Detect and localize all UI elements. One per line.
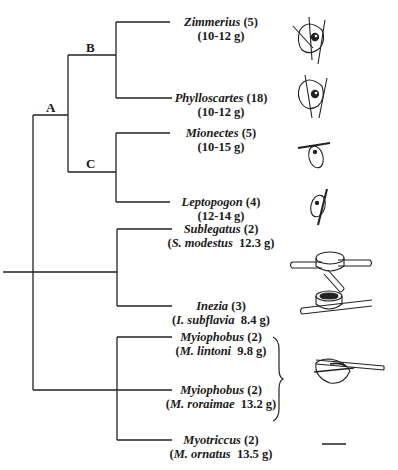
body-mass: (10-15 g)	[146, 140, 296, 154]
body-mass: 12.3 g)	[239, 236, 274, 250]
taxon-myiophobus-lintoni: Myiophobus (2) (M. lintoni 9.8 g)	[146, 330, 296, 358]
nest-leptopogon-icon	[308, 189, 327, 225]
nest-myiophobus-icon	[314, 359, 384, 383]
species-name: S. modestus	[172, 236, 233, 250]
genus-name: Myiophobus	[180, 330, 244, 344]
genus-name: Myiophobus	[180, 383, 244, 397]
body-mass: (12-14 g)	[146, 209, 296, 223]
species-count: (18)	[247, 91, 268, 105]
species-count: (2)	[244, 433, 259, 447]
nest-mionectes-icon	[298, 143, 330, 169]
genus-name: Sublegatus	[184, 222, 241, 236]
species-count: (2)	[244, 222, 259, 236]
species-name: I. subflavia	[176, 313, 234, 327]
clade-label-a: A	[46, 100, 55, 116]
body-mass: 8.4 g)	[241, 313, 270, 327]
genus-name: Inezia	[196, 299, 228, 313]
taxon-leptopogon: Leptopogon (4) (12-14 g)	[146, 195, 296, 223]
body-mass: 9.8 g)	[237, 344, 266, 358]
species-name: M. ornatus	[174, 447, 231, 461]
body-mass: (10-12 g)	[146, 29, 296, 43]
genus-name: Leptopogon	[182, 195, 243, 209]
body-mass: 13.5 g)	[237, 447, 272, 461]
species-count: (5)	[243, 15, 258, 29]
genus-name: Myotriccus	[183, 433, 241, 447]
taxon-zimmerius: Zimmerius (5) (10-12 g)	[146, 15, 296, 43]
species-name: M. lintoni	[180, 344, 231, 358]
species-count: (4)	[246, 195, 261, 209]
taxon-myotriccus: Myotriccus (2) (M. ornatus 13.5 g)	[146, 433, 296, 461]
genus-name: Phylloscartes	[175, 91, 244, 105]
genus-name: Zimmerius	[184, 15, 240, 29]
clade-label-c: C	[86, 156, 95, 172]
body-mass: (10-12 g)	[146, 105, 296, 119]
nest-inezia-icon	[301, 291, 373, 314]
taxon-myiophobus-roraimae: Myiophobus (2) (M. roraimae 13.2 g)	[146, 383, 296, 411]
body-mass: 13.2 g)	[241, 397, 276, 411]
species-count: (2)	[247, 330, 262, 344]
genus-name: Mionectes	[186, 126, 239, 140]
taxon-mionectes: Mionectes (5) (10-15 g)	[146, 126, 296, 154]
taxon-sublegatus: Sublegatus (2) (S. modestus 12.3 g)	[146, 222, 296, 250]
species-count: (2)	[247, 383, 262, 397]
nest-zimmerius-icon	[293, 17, 325, 64]
clade-label-b: B	[86, 40, 95, 56]
species-name: M. roraimae	[170, 397, 235, 411]
species-count: (5)	[242, 126, 257, 140]
nest-phylloscartes-icon	[298, 75, 327, 118]
taxon-inezia: Inezia (3) (I. subflavia 8.4 g)	[146, 299, 296, 327]
species-count: (3)	[231, 299, 246, 313]
nest-sublegatus-icon	[291, 252, 372, 292]
taxon-phylloscartes: Phylloscartes (18) (10-12 g)	[146, 91, 296, 119]
